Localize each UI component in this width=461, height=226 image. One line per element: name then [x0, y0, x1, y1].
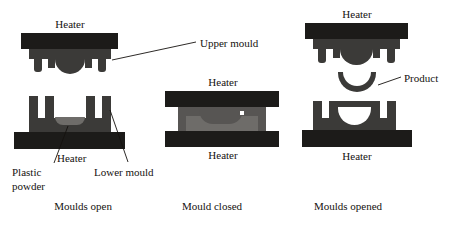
diagram-canvas: Heater	[0, 0, 461, 226]
leader-product	[378, 77, 401, 85]
leader-lower-mould	[110, 110, 128, 162]
leader-upper-mould	[112, 42, 196, 60]
caption-panel-2: Mould closed	[182, 200, 242, 212]
leader-plastic-powder	[54, 126, 68, 163]
caption-panel-1: Moulds open	[54, 200, 112, 212]
caption-panel-3: Moulds opened	[314, 200, 382, 212]
leader-lines	[0, 0, 461, 226]
